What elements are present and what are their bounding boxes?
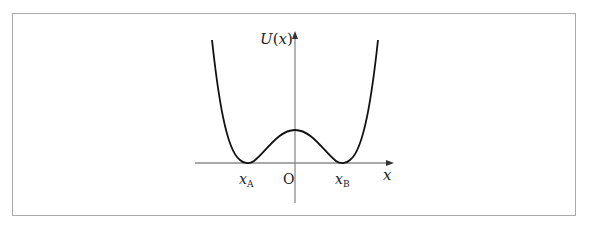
x-axis-label: x	[383, 166, 392, 184]
point-label-xB: xB	[335, 171, 350, 189]
y-axis-arrowhead	[292, 31, 298, 39]
point-label-xA: xA	[239, 171, 254, 189]
double-well-diagram: U(x) xA O xB x	[0, 0, 591, 231]
origin-label: O	[283, 171, 294, 187]
y-axis-label: U(x)	[260, 30, 293, 48]
